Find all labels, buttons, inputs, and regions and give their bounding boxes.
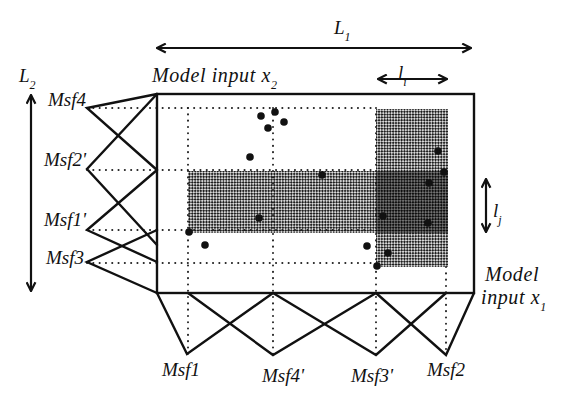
- membership-function-msf1: [157, 293, 273, 354]
- membership-function-msf2: [376, 293, 474, 355]
- L2-label: L2: [18, 65, 36, 92]
- model-input-x1-label-line2: input x1: [481, 286, 547, 314]
- data-point: [440, 168, 448, 176]
- x2-membership-functions: [87, 94, 157, 293]
- lj-label: lj: [493, 200, 502, 227]
- L1-label: L1: [333, 17, 351, 44]
- membership-function-msf1-prime: [87, 170, 157, 262]
- model-input-x2-label: Model input x2: [151, 64, 278, 92]
- diagram-canvas: L1 L2 li lj Model input x2 Model input x…: [0, 0, 561, 406]
- data-point: [384, 249, 392, 257]
- data-point: [257, 112, 265, 120]
- membership-label-msf2: Msf2: [426, 359, 466, 380]
- data-point: [424, 219, 432, 227]
- data-point: [379, 212, 387, 220]
- data-point: [363, 242, 371, 250]
- model-input-x1-label-line1: Model: [484, 263, 539, 285]
- data-point: [185, 228, 193, 236]
- data-point: [280, 118, 288, 126]
- data-point: [246, 153, 254, 161]
- x1-membership-functions: [157, 293, 474, 355]
- data-point: [373, 262, 381, 270]
- data-point: [425, 179, 433, 187]
- data-point: [201, 241, 209, 249]
- shaded-region-rule-overlap: [376, 171, 448, 233]
- membership-function-msf4-prime: [188, 293, 376, 355]
- membership-label-msf3: Msf3: [45, 247, 84, 268]
- data-point: [264, 124, 272, 132]
- membership-label-msf4: Msf4: [47, 89, 87, 110]
- data-point: [318, 171, 326, 179]
- membership-label-msf4-prime: Msf4': [261, 365, 305, 386]
- li-label: li: [398, 62, 407, 89]
- data-point: [271, 108, 279, 116]
- membership-label-msf1-prime: Msf1': [43, 209, 87, 230]
- data-point: [434, 147, 442, 155]
- membership-function-msf3: [87, 230, 157, 293]
- membership-label-msf2-prime: Msf2': [43, 149, 87, 170]
- membership-label-msf3-prime: Msf3': [350, 365, 394, 386]
- fuzzy-partition-diagram: L1 L2 li lj Model input x2 Model input x…: [0, 0, 561, 406]
- membership-label-msf1: Msf1: [161, 359, 200, 380]
- data-point: [255, 214, 263, 222]
